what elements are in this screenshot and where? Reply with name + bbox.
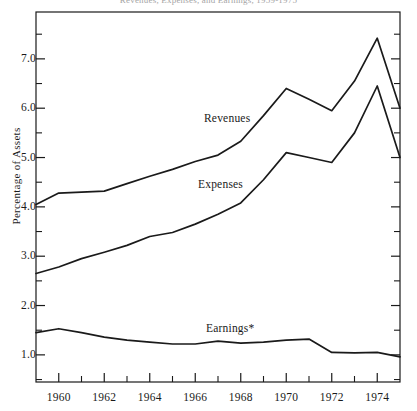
series-label-revenues: Revenues xyxy=(204,112,250,124)
x-axis-minor-ticks xyxy=(82,376,355,382)
data-series-lines xyxy=(36,38,400,357)
series-label-earnings: Earnings* xyxy=(206,322,254,334)
chart-figure: Revenues, Expenses, and Earnings, 1959-1… xyxy=(0,0,417,411)
series-label-expenses: Expenses xyxy=(198,178,243,190)
y-axis-major-ticks xyxy=(36,59,400,355)
plot-area xyxy=(0,0,417,411)
